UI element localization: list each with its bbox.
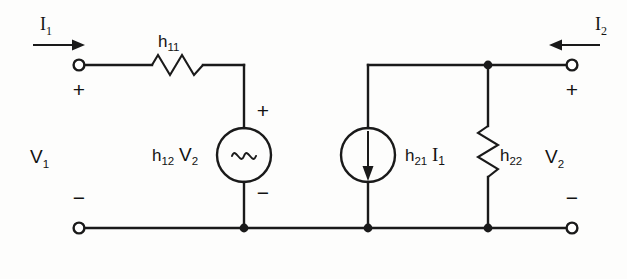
voltage-source-plus-sign: + — [257, 99, 269, 122]
input-voltage-label: V1 — [30, 146, 49, 170]
current-direction-down-arrow-icon — [363, 131, 374, 181]
input-plus-sign: + — [73, 78, 85, 101]
current-source-h21i1-label: h21 I1 — [405, 144, 445, 168]
resistor-h11-symbol — [152, 55, 203, 75]
output-top-terminal[interactable] — [567, 60, 578, 71]
output-voltage-label: V2 — [545, 146, 564, 170]
voltage-source-h12v2-label: h12 V2 — [152, 144, 198, 167]
output-plus-sign: + — [566, 78, 578, 101]
resistor-h11-label: h11 — [158, 32, 179, 53]
output-bottom-terminal[interactable] — [567, 223, 578, 234]
circuit-canvas: I1 I2 + − + − V1 V2 h11 h12 V2 + − h21 I… — [0, 0, 627, 279]
output-minus-sign: − — [566, 186, 578, 209]
output-current-arrow — [549, 40, 600, 51]
input-bottom-terminal[interactable] — [74, 223, 85, 234]
output-current-label: I2 — [595, 14, 607, 38]
input-current-arrow — [33, 40, 85, 51]
input-current-label: I1 — [40, 14, 52, 38]
input-minus-sign: − — [73, 186, 85, 209]
voltage-source-minus-sign: − — [257, 181, 269, 204]
input-top-terminal[interactable] — [74, 60, 85, 71]
resistor-h22-label: h22 — [500, 146, 522, 167]
circuit-diagram-figure: I1 I2 + − + − V1 V2 h11 h12 V2 + − h21 I… — [0, 0, 627, 279]
ac-tilde-icon — [232, 153, 256, 159]
node-dot-bottom-left — [240, 224, 249, 233]
resistor-h22-symbol — [478, 126, 498, 177]
